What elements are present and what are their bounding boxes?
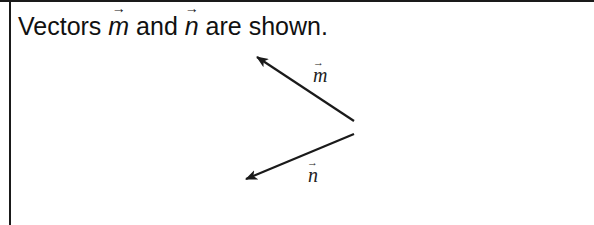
vector-n-arrow-icon bbox=[246, 134, 354, 179]
vector-m-label: m bbox=[313, 64, 327, 86]
vector-m-arrow-icon bbox=[257, 57, 354, 121]
vector-n: → n bbox=[246, 134, 354, 186]
vector-m: → m bbox=[257, 56, 354, 121]
vector-n-label: n bbox=[308, 164, 318, 186]
vector-diagram: → m → n bbox=[0, 0, 594, 225]
